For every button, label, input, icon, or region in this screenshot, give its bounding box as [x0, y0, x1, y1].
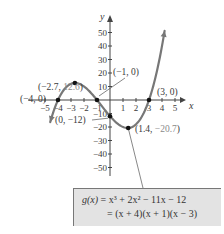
root-label-neg1: (−1, 0) [113, 67, 139, 78]
y-tick-label: 20 [98, 68, 108, 78]
x-axis-label: x [188, 100, 194, 111]
x-tick-label: 2 [134, 103, 139, 113]
x-axis-arrow-icon [180, 97, 186, 103]
y-tick-label: 50 [98, 28, 108, 38]
x-tick-label: 1 [121, 103, 126, 113]
x-tick-label: 4 [160, 103, 165, 113]
equation-expanded: g(x) = x³ + 2x² − 11x − 12 [82, 194, 186, 205]
y-axis-arrow-icon [107, 15, 113, 22]
equation-factored: = (x + 4)(x + 1)(x − 3) [107, 208, 197, 219]
curve-layer [49, 31, 167, 128]
y-tick-label: 40 [98, 41, 108, 51]
y-tick-label: −20 [93, 122, 108, 132]
x-tick-label: −2 [79, 103, 89, 113]
x-tick-label: 5 [173, 103, 178, 113]
y-axis-label: y [99, 11, 105, 22]
key-point-marker [56, 98, 61, 103]
y-intercept-label: (0, −12) [55, 115, 86, 126]
y-tick-label: 30 [98, 55, 108, 65]
y-tick-label: −30 [93, 136, 108, 146]
function-name: g(x) [82, 194, 98, 205]
local-max-label: (−2.7, 12.6) [38, 82, 83, 93]
y-tick-label: 10 [98, 82, 108, 92]
cubic-curve [50, 31, 164, 128]
key-point-marker [147, 98, 152, 103]
root-label-neg4: (−4, 0) [20, 94, 46, 105]
local-min-label: (1.4, −20.7) [135, 124, 180, 135]
y-tick-label: −40 [93, 149, 108, 159]
x-tick-label: −5 [40, 103, 50, 113]
y-tick-label: −50 [93, 163, 108, 173]
key-point-marker [126, 126, 131, 131]
key-point-marker [95, 98, 100, 103]
root-label-3: (3, 0) [157, 87, 178, 98]
key-point-marker [108, 114, 113, 119]
equation-box: g(x) = x³ + 2x² − 11x − 12 = (x + 4)(x +… [73, 188, 221, 226]
expanded-form: = x³ + 2x² − 11x − 12 [98, 194, 186, 205]
x-tick-label: −3 [66, 103, 76, 113]
